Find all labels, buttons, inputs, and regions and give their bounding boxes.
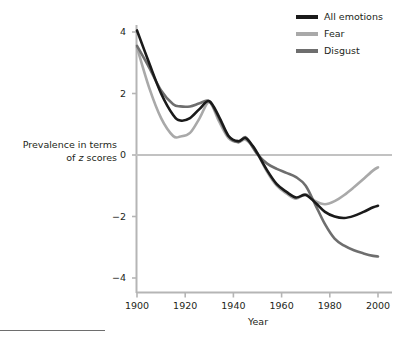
y-tick-label: −4 xyxy=(104,272,126,283)
x-axis-label: Year xyxy=(137,316,379,327)
legend-swatch-disgust xyxy=(296,49,318,53)
legend-label-all-emotions: All emotions xyxy=(324,11,383,22)
chart-figure: All emotions Fear Disgust Prevalence in … xyxy=(0,0,409,340)
x-tick-label: 1980 xyxy=(310,300,350,311)
legend-swatch-all-emotions xyxy=(296,15,318,19)
x-tick-label: 1960 xyxy=(262,300,302,311)
legend-label-fear: Fear xyxy=(324,28,345,39)
y-axis-label-line2-pre: of xyxy=(66,152,78,163)
legend-item-fear[interactable]: Fear xyxy=(296,27,383,40)
y-axis-label-line1: Prevalence in terms xyxy=(12,139,117,152)
y-tick-label: 0 xyxy=(104,149,126,160)
chart-series-group xyxy=(137,30,378,256)
legend-item-disgust[interactable]: Disgust xyxy=(296,44,383,57)
chart-axes xyxy=(137,25,393,293)
chart-legend: All emotions Fear Disgust xyxy=(296,10,383,57)
x-tick-label: 1900 xyxy=(117,300,157,311)
x-tick-label: 1920 xyxy=(165,300,205,311)
legend-label-disgust: Disgust xyxy=(324,45,360,56)
legend-swatch-fear xyxy=(296,32,318,36)
footnote-rule xyxy=(0,330,105,331)
y-axis-label: Prevalence in terms of z scores xyxy=(12,139,117,164)
y-tick-label: −2 xyxy=(104,211,126,222)
y-tick-label: 4 xyxy=(104,26,126,37)
y-tick-label: 2 xyxy=(104,88,126,99)
series-line-fear xyxy=(137,47,378,204)
legend-item-all-emotions[interactable]: All emotions xyxy=(296,10,383,23)
x-tick-label: 2000 xyxy=(358,300,398,311)
series-line-all-emotions xyxy=(137,30,378,218)
y-axis-label-line2: of z scores xyxy=(12,152,117,165)
x-tick-label: 1940 xyxy=(213,300,253,311)
